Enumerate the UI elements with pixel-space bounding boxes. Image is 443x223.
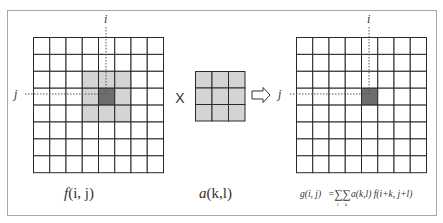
- kernel-grid-cell: [212, 105, 229, 122]
- output-grid-cell: [378, 54, 394, 71]
- output-grid-cell: [329, 122, 345, 139]
- output-grid-cell: [410, 156, 426, 173]
- input-grid-cell: [147, 38, 163, 55]
- input-grid-cell: [115, 54, 131, 71]
- output-grid-cell: [378, 71, 394, 88]
- output-grid-cell: [345, 139, 361, 156]
- output-grid-cell: [297, 105, 313, 122]
- input-grid-cell: [34, 122, 50, 139]
- output-grid-cell: [394, 156, 410, 173]
- input-grid-cell: [115, 156, 131, 173]
- output-grid-cell: [345, 71, 361, 88]
- output-grid-cell: [329, 156, 345, 173]
- input-grid-cell: [147, 139, 163, 156]
- input-grid-cell: [131, 88, 147, 105]
- output-grid-cell: [394, 88, 410, 105]
- output-axis-i-label: i: [367, 12, 370, 26]
- output-grid-cell: [394, 38, 410, 55]
- input-grid-cell: [147, 122, 163, 139]
- output-grid-cell: [410, 38, 426, 55]
- output-grid-cell: [329, 54, 345, 71]
- output-grid-cell: [410, 139, 426, 156]
- input-grid-cell: [99, 88, 115, 105]
- output-grid-cell: [362, 38, 378, 55]
- input-grid-cell: [131, 105, 147, 122]
- input-grid-cell: [99, 54, 115, 71]
- input-function-label: f(i, j): [64, 185, 94, 202]
- input-grid-cell: [50, 71, 66, 88]
- input-grid-cell: [115, 88, 131, 105]
- input-grid-cell: [34, 54, 50, 71]
- input-grid-cell: [82, 122, 98, 139]
- output-grid-cell: [329, 38, 345, 55]
- input-grid-cell: [82, 156, 98, 173]
- output-image-grid: [297, 38, 427, 173]
- svg-text:a(k,l) f(i+k, j+l): a(k,l) f(i+k, j+l): [351, 189, 412, 200]
- input-grid-cell: [34, 105, 50, 122]
- output-grid-cell: [394, 122, 410, 139]
- output-grid-cell: [345, 54, 361, 71]
- output-grid-cell: [297, 38, 313, 55]
- output-grid-cell: [297, 122, 313, 139]
- input-grid-cell: [34, 38, 50, 55]
- input-grid-cell: [147, 105, 163, 122]
- output-grid-cell: [362, 54, 378, 71]
- output-grid-cell: [394, 105, 410, 122]
- output-grid-cell: [313, 105, 329, 122]
- output-grid-cell: [410, 54, 426, 71]
- input-grid-cell: [34, 88, 50, 105]
- input-grid-cell: [66, 71, 82, 88]
- input-grid-cell: [50, 139, 66, 156]
- output-grid-cell: [362, 71, 378, 88]
- input-grid-cell: [115, 38, 131, 55]
- input-image-grid: [34, 38, 164, 173]
- input-grid-cell: [82, 105, 98, 122]
- input-grid-cell: [50, 122, 66, 139]
- output-grid-cell: [378, 105, 394, 122]
- input-grid-cell: [147, 54, 163, 71]
- convolution-diagram: i j X i j f(i, j) a(k,l) g(i, j) = ∑ l ∑…: [0, 0, 443, 223]
- output-grid-cell: [410, 122, 426, 139]
- output-grid-cell: [410, 105, 426, 122]
- output-grid-cell: [410, 88, 426, 105]
- input-grid-cell: [99, 38, 115, 55]
- input-grid-cell: [34, 71, 50, 88]
- input-grid-cell: [82, 54, 98, 71]
- input-grid-cell: [82, 38, 98, 55]
- input-grid-cell: [50, 105, 66, 122]
- svg-text:g(i, j): g(i, j): [300, 189, 321, 200]
- output-grid-cell: [378, 38, 394, 55]
- kernel-function-label: a(k,l): [199, 185, 232, 202]
- output-grid-cell: [329, 105, 345, 122]
- output-grid-cell: [313, 139, 329, 156]
- input-grid-cell: [66, 88, 82, 105]
- input-grid-cell: [66, 54, 82, 71]
- output-grid-cell: [297, 88, 313, 105]
- input-grid-cell: [131, 38, 147, 55]
- input-grid-cell: [99, 156, 115, 173]
- input-grid-cell: [99, 105, 115, 122]
- output-grid-cell: [313, 156, 329, 173]
- input-grid-cell: [115, 139, 131, 156]
- svg-text:∑: ∑: [342, 187, 351, 201]
- input-grid-cell: [66, 38, 82, 55]
- kernel-grid-cell: [212, 88, 229, 105]
- output-grid-cell: [394, 139, 410, 156]
- output-grid-cell: [313, 88, 329, 105]
- kernel-grid-cell: [196, 88, 213, 105]
- output-grid-cell: [378, 122, 394, 139]
- input-grid-cell: [34, 139, 50, 156]
- kernel-grid-cell: [229, 88, 246, 105]
- output-grid-cell: [297, 71, 313, 88]
- output-grid-cell: [297, 54, 313, 71]
- input-grid-cell: [82, 139, 98, 156]
- output-grid-cell: [313, 38, 329, 55]
- output-grid-cell: [313, 54, 329, 71]
- output-grid-cell: [345, 105, 361, 122]
- input-grid-cell: [147, 71, 163, 88]
- output-grid-cell: [362, 122, 378, 139]
- output-grid-cell: [362, 139, 378, 156]
- input-grid-cell: [82, 88, 98, 105]
- output-grid-cell: [378, 156, 394, 173]
- output-grid-cell: [410, 71, 426, 88]
